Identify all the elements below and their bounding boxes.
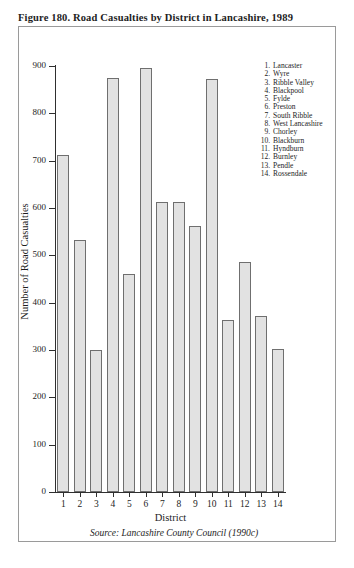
x-axis-title: District (55, 512, 286, 523)
legend-item: 5.Fylde (258, 95, 350, 103)
legend-item-number: 14. (258, 170, 270, 178)
bar (206, 79, 218, 492)
x-axis-tick-label: 14 (267, 499, 289, 510)
legend-item: 11.Hyndburn (258, 145, 350, 153)
bar (57, 155, 69, 492)
x-axis-tick (261, 493, 262, 497)
x-axis-tick (228, 493, 229, 497)
legend-item-label: Rossendale (273, 169, 307, 178)
x-axis-tick (195, 493, 196, 497)
x-axis-tick (129, 493, 130, 497)
x-axis-line (55, 492, 286, 493)
x-axis-tick (113, 493, 114, 497)
x-axis-tick (63, 493, 64, 497)
y-axis-tick-label: 100 (6, 440, 46, 449)
bar (189, 226, 201, 492)
y-axis-tick-label: 0 (6, 487, 46, 496)
legend-item: 4.Blackpool (258, 87, 350, 95)
x-axis-tick (80, 493, 81, 497)
figure-title: Figure 180. Road Casualties by District … (18, 12, 308, 23)
legend-item: 1.Lancaster (258, 62, 350, 70)
bar (156, 202, 168, 492)
bar (239, 262, 251, 492)
y-axis-tick (49, 492, 55, 493)
legend-item: 14.Rossendale (258, 170, 350, 178)
x-axis-tick (146, 493, 147, 497)
legend-item: 8.West Lancashire (258, 120, 350, 128)
bar (123, 274, 135, 492)
bar (222, 320, 234, 492)
x-axis-tick (179, 493, 180, 497)
x-axis-tick (245, 493, 246, 497)
bar (272, 349, 284, 492)
legend: 1.Lancaster2.Wyre3.Ribble Valley4.Blackp… (258, 62, 350, 178)
y-axis-title: Number of Road Casualties (19, 152, 30, 372)
x-axis-tick (278, 493, 279, 497)
x-axis-tick (96, 493, 97, 497)
y-axis-tick-label: 800 (6, 108, 46, 117)
y-axis-tick-label: 200 (6, 392, 46, 401)
legend-item: 10.Blackburn (258, 137, 350, 145)
y-axis-tick-label: 900 (6, 61, 46, 70)
x-axis-tick (162, 493, 163, 497)
bar (74, 240, 86, 492)
bar (140, 68, 152, 492)
x-axis-tick (212, 493, 213, 497)
bar (107, 78, 119, 492)
plot-area (55, 66, 285, 492)
source-caption: Source: Lancashire County Council (1990c… (18, 528, 330, 538)
bar (90, 350, 102, 492)
bar (173, 202, 185, 492)
legend-item: 3.Ribble Valley (258, 79, 350, 87)
bar (255, 316, 267, 492)
legend-item: 12.Burnley (258, 153, 350, 161)
